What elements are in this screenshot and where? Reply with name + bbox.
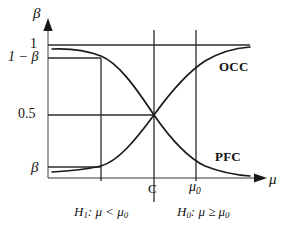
h1-relation: : μ < μ <box>88 204 124 219</box>
x-tick-mu-glyph: μ <box>189 179 196 194</box>
y-tick-label-half: 0.5 <box>18 107 36 121</box>
x-tick-mu-subscript: 0 <box>196 186 201 196</box>
h1-relation-subscript: 0 <box>124 210 128 220</box>
y-tick-label-beta: β <box>31 160 38 175</box>
y-axis-arrowhead <box>43 18 52 31</box>
plot-canvas <box>0 0 291 238</box>
h1-symbol: H <box>74 204 83 219</box>
pfc-curve-label: PFC <box>215 150 241 163</box>
y-axis-label: β <box>33 6 40 21</box>
h0-symbol: H <box>177 204 186 219</box>
hypothesis-h0-label: H0: μ ≥ μ0 <box>177 205 230 220</box>
reference-lines-group <box>48 30 250 202</box>
h0-relation-subscript: 0 <box>225 210 229 220</box>
x-axis-arrowhead <box>254 173 267 182</box>
occ-pfc-figure: β 1 1 − β 0.5 β μ C μ0 OCC PFC H1: μ < μ… <box>0 0 291 238</box>
x-axis-label: μ <box>269 172 277 187</box>
x-tick-label-c: C <box>148 182 157 195</box>
occ-curve-label: OCC <box>219 60 249 73</box>
h0-relation: : μ ≥ μ <box>191 204 225 219</box>
x-tick-label-mu-zero: μ0 <box>189 180 201 196</box>
hypothesis-h1-label: H1: μ < μ0 <box>74 205 128 220</box>
y-tick-label-one-minus-beta: 1 − β <box>8 50 38 64</box>
